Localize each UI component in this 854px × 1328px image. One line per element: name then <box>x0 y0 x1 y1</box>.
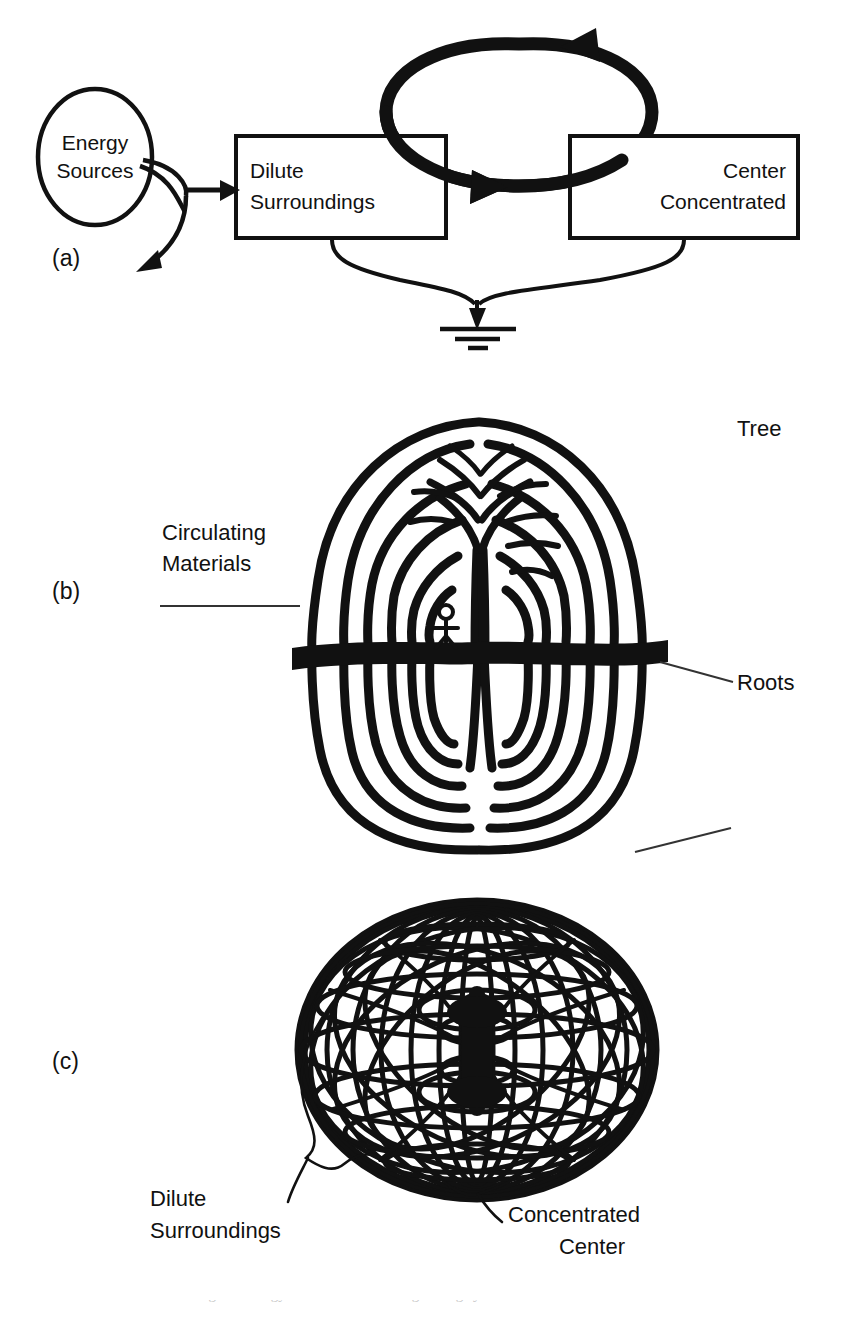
label-circulating-line1: Circulating <box>162 520 266 545</box>
caption-partial-text: Figure. Energy circulation in self-organ… <box>196 1300 518 1303</box>
label-tree: Tree <box>737 416 781 441</box>
label-center-line2: Center <box>559 1234 625 1259</box>
toroidal-mesh-icon <box>288 898 667 1203</box>
inflow-arrow-icon <box>140 160 240 212</box>
panel-a: Energy Sources Dilute Surroundings Cente… <box>0 0 854 380</box>
heat-sink-ground-icon <box>440 329 516 348</box>
source-label-line2: Sources <box>56 159 133 182</box>
box-left-label-line1: Dilute <box>250 159 304 182</box>
ellipse-source-icon <box>38 89 152 225</box>
panel-b-graphic: Tree Roots Circulating Materials <box>0 400 854 870</box>
panel-marker-c: (c) <box>52 1048 79 1075</box>
label-dilute-line2: Surroundings <box>150 1218 281 1243</box>
panel-marker-b: (b) <box>52 578 80 605</box>
tree-icon <box>312 422 642 850</box>
label-circulating-line2: Materials <box>162 551 251 576</box>
panel-c: Dilute Surroundings Concentrated Center … <box>0 880 854 1300</box>
panel-a-graphic: Energy Sources Dilute Surroundings Cente… <box>0 0 854 380</box>
label-dilute-line1: Dilute <box>150 1186 206 1211</box>
heat-sink-path <box>332 240 684 330</box>
panel-marker-a: (a) <box>52 245 80 272</box>
box-right-label-line1: Center <box>723 159 786 182</box>
figure-root: Energy Sources Dilute Surroundings Cente… <box>0 0 854 1328</box>
caption-strip: Figure. Energy circulation in self-organ… <box>0 1300 854 1328</box>
panel-c-graphic: Dilute Surroundings Concentrated Center <box>0 880 854 1300</box>
label-roots: Roots <box>737 670 794 695</box>
box-left-label-line2: Surroundings <box>250 190 375 213</box>
dispersal-arrow-icon <box>136 196 186 272</box>
panel-b: Tree Roots Circulating Materials (b) <box>0 400 854 870</box>
box-right-label-line2: Concentrated <box>660 190 786 213</box>
stick-figure-icon <box>434 605 458 648</box>
box-center-concentrated <box>570 136 798 238</box>
label-center-line1: Concentrated <box>508 1202 640 1227</box>
source-label-line1: Energy <box>62 131 129 154</box>
